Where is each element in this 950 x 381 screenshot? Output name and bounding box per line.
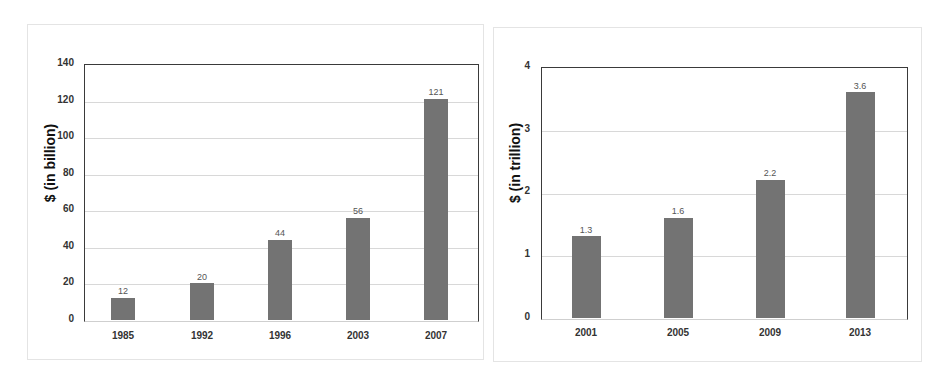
y-tick: 1 xyxy=(500,248,530,259)
data-label: 2.2 xyxy=(750,168,790,178)
y-tick: 0 xyxy=(44,313,74,324)
y-tick: 140 xyxy=(44,57,74,68)
data-label: 56 xyxy=(338,206,378,216)
y-tick: 120 xyxy=(44,94,74,105)
y-tick: 3 xyxy=(500,123,530,134)
gridline xyxy=(85,138,478,139)
y-axis-label-right: $ (in trillion) xyxy=(507,103,523,223)
y-tick: 80 xyxy=(44,167,74,178)
y-tick: 2 xyxy=(500,185,530,196)
bar-2013 xyxy=(846,92,875,318)
bar-2001 xyxy=(572,236,601,318)
bar-1996 xyxy=(268,240,292,321)
y-tick: 0 xyxy=(500,311,530,322)
gridline xyxy=(85,175,478,176)
x-tick: 2009 xyxy=(745,327,795,338)
data-label: 3.6 xyxy=(840,81,880,91)
bar-2005 xyxy=(664,218,693,318)
bar-1985 xyxy=(111,298,135,320)
bar-2009 xyxy=(756,180,785,318)
x-tick: 2003 xyxy=(333,330,383,341)
data-label: 20 xyxy=(182,272,222,282)
data-label: 1.3 xyxy=(566,225,606,235)
x-tick: 1996 xyxy=(255,330,305,341)
y-tick: 100 xyxy=(44,130,74,141)
y-tick: 4 xyxy=(500,60,530,71)
data-label: 12 xyxy=(103,286,143,296)
bar-2007 xyxy=(424,99,448,320)
x-tick: 2005 xyxy=(653,327,703,338)
x-tick: 2013 xyxy=(835,327,885,338)
gridline xyxy=(85,211,478,212)
y-tick: 40 xyxy=(44,240,74,251)
data-label: 121 xyxy=(416,87,456,97)
gridline xyxy=(85,102,478,103)
y-tick: 60 xyxy=(44,203,74,214)
x-tick: 1985 xyxy=(98,330,148,341)
data-label: 44 xyxy=(260,228,300,238)
data-label: 1.6 xyxy=(658,206,698,216)
bar-1992 xyxy=(190,283,214,320)
x-tick: 2001 xyxy=(561,327,611,338)
y-tick: 20 xyxy=(44,276,74,287)
x-tick: 2007 xyxy=(411,330,461,341)
x-tick: 1992 xyxy=(177,330,227,341)
bar-2003 xyxy=(346,218,370,320)
